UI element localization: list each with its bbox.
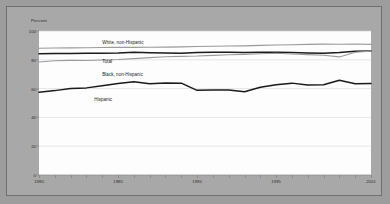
x-axis-tick-mark [308, 175, 309, 178]
plot-wrapper: 10080604020019801985199019952001White, n… [39, 31, 371, 175]
x-axis-tick-mark [324, 175, 325, 178]
x-axis-tick-mark [229, 175, 230, 178]
x-axis-tick-mark [245, 175, 246, 178]
series-label-hispanic: Hispanic [94, 97, 112, 102]
x-axis-tick-label: 1995 [271, 179, 281, 184]
x-axis-tick-mark [150, 175, 151, 178]
y-axis-tick-mark [36, 59, 39, 60]
data-series-line [39, 44, 371, 48]
data-series-line [39, 80, 371, 92]
y-axis-tick-mark [36, 146, 39, 147]
x-axis-tick-mark [292, 175, 293, 178]
y-axis-tick-mark [36, 88, 39, 89]
x-axis-tick-label: 1990 [192, 179, 202, 184]
series-label-white: White, non-Hispanic [102, 40, 143, 45]
x-axis-tick-mark [181, 175, 182, 178]
x-axis-tick-mark [55, 175, 56, 178]
x-axis-tick-mark [134, 175, 135, 178]
data-series-line [39, 51, 371, 54]
figure-frame: Percent 10080604020019801985199019952001… [6, 6, 382, 196]
y-axis-tick-mark [36, 117, 39, 118]
x-axis-tick-label: 2001 [366, 179, 376, 184]
x-axis-tick-mark [371, 175, 372, 178]
x-axis-tick-mark [260, 175, 261, 178]
x-axis-tick-label: 1980 [34, 179, 44, 184]
series-label-total: Total [102, 59, 112, 64]
x-axis-tick-mark [339, 175, 340, 178]
chart-canvas [39, 31, 371, 175]
x-axis-tick-mark [39, 175, 40, 178]
x-axis-tick-mark [165, 175, 166, 178]
x-axis-tick-mark [102, 175, 103, 178]
x-axis-tick-mark [213, 175, 214, 178]
y-axis-tick-mark [36, 31, 39, 32]
y-axis-tick-label: 100 [29, 29, 36, 34]
x-axis-tick-mark [197, 175, 198, 178]
x-axis-tick-mark [71, 175, 72, 178]
x-axis-tick-mark [118, 175, 119, 178]
x-axis-tick-label: 1985 [113, 179, 123, 184]
x-axis-tick-mark [355, 175, 356, 178]
x-axis-tick-mark [276, 175, 277, 178]
x-axis-tick-mark [86, 175, 87, 178]
y-axis-label: Percent [31, 18, 47, 23]
series-label-black: Black, non-Hispanic [102, 72, 143, 77]
